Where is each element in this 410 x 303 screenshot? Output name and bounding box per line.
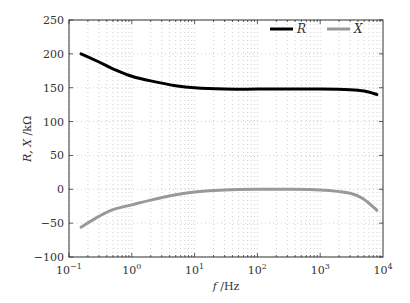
x-tick-label: 101: [185, 262, 204, 277]
x-tick-label: 104: [373, 262, 392, 277]
plot-area-frame: [69, 20, 383, 257]
x-tick-label: 10−1: [56, 262, 82, 277]
y-tick-label: 250: [43, 14, 64, 27]
y-tick-label: −100: [34, 251, 64, 264]
y-tick-label: 0: [57, 183, 64, 196]
line-chart: −100−5005010015020025010−110010110210310…: [0, 0, 410, 303]
axis-ticks: −100−5005010015020025010−110010110210310…: [34, 14, 393, 277]
y-tick-label: 150: [43, 82, 64, 95]
legend-label-x: X: [353, 22, 363, 36]
y-tick-label: 200: [43, 48, 64, 61]
grid-lines: [69, 20, 383, 257]
y-tick-label: 100: [43, 116, 64, 129]
x-axis-label: f /Hz: [212, 280, 240, 293]
x-tick-label: 100: [122, 262, 141, 277]
y-axis-label: R, X /kΩ: [21, 116, 34, 163]
legend: R X: [270, 22, 363, 36]
x-tick-label: 102: [248, 262, 267, 277]
y-tick-label: −50: [41, 217, 64, 230]
legend-label-r: R: [296, 22, 306, 36]
y-tick-label: 50: [50, 149, 64, 162]
x-tick-label: 103: [311, 262, 330, 277]
